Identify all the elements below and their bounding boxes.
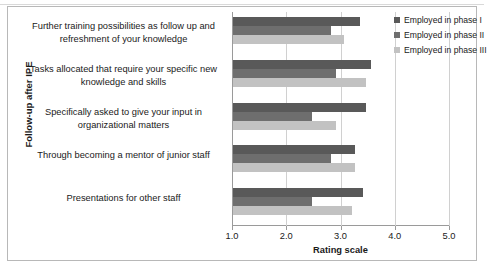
top-clipped-row <box>0 0 484 5</box>
legend-item[interactable]: Employed in phase III <box>394 43 480 57</box>
category-label: Specifically asked to give your input in… <box>21 106 226 131</box>
x-axis-tick-label: 4.0 <box>375 231 415 241</box>
bar <box>233 163 355 172</box>
bar-group <box>233 55 449 98</box>
bar-group <box>233 98 449 141</box>
x-axis-tick <box>449 226 450 230</box>
x-axis-title: Rating scale <box>232 245 449 255</box>
x-axis-tick <box>232 226 233 230</box>
category-label: Further training possibilities as follow… <box>21 20 226 45</box>
bar <box>233 35 344 44</box>
legend-swatch-icon <box>394 47 400 53</box>
x-axis-tick-label: 1.0 <box>212 231 252 241</box>
bar <box>233 112 312 121</box>
legend-swatch-icon <box>394 32 400 38</box>
chart-figure: Follow-up after IPE Rating scale Employe… <box>7 6 477 261</box>
legend-swatch-icon <box>394 17 400 23</box>
bar <box>233 78 366 87</box>
bar <box>233 154 331 163</box>
bar <box>233 188 363 197</box>
category-label: Presentations for other staff <box>21 192 226 205</box>
x-axis-tick <box>341 226 342 230</box>
chart-legend: Employed in phase IEmployed in phase IIE… <box>394 13 480 58</box>
bar <box>233 121 336 130</box>
legend-label: Employed in phase III <box>404 45 487 55</box>
bar <box>233 60 371 69</box>
bar-group <box>233 140 449 183</box>
x-axis-tick <box>286 226 287 230</box>
x-axis-tick <box>395 226 396 230</box>
category-label: Through becoming a mentor of junior staf… <box>21 149 226 162</box>
x-axis-tick-label: 5.0 <box>429 231 469 241</box>
legend-item[interactable]: Employed in phase II <box>394 28 480 42</box>
bar <box>233 26 331 35</box>
bar <box>233 103 366 112</box>
bar-group <box>233 183 449 226</box>
bar <box>233 145 355 154</box>
legend-label: Employed in phase II <box>404 30 484 40</box>
bar <box>233 69 336 78</box>
x-axis-tick-label: 2.0 <box>266 231 306 241</box>
bar <box>233 17 360 26</box>
legend-label: Employed in phase I <box>404 15 482 25</box>
category-label: Tasks allocated that require your specif… <box>21 63 226 88</box>
legend-item[interactable]: Employed in phase I <box>394 13 480 27</box>
x-axis-tick-label: 3.0 <box>321 231 361 241</box>
bar <box>233 206 352 215</box>
bar <box>233 197 312 206</box>
